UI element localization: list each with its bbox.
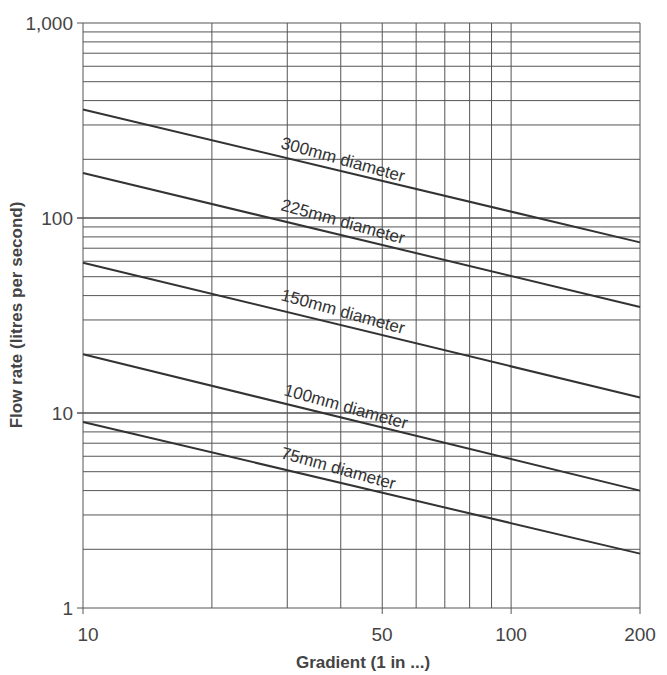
y-axis-label: Flow rate (litres per second) [7,202,26,429]
flow-rate-chart: 1,000 100 10 1 10 50 100 200 Gradient (1… [0,0,667,675]
y-tick-10: 10 [52,403,73,424]
series-line-225mm [83,173,640,307]
x-tick-200: 200 [624,624,656,645]
series-line-150mm [83,263,640,398]
series-lines [83,110,640,554]
series-label-75mm: 75mm diameter [279,444,398,494]
series-line-75mm [83,422,640,554]
x-tick-50: 50 [371,624,392,645]
series-label-150mm: 150mm diameter [279,286,407,338]
x-tick-10: 10 [77,624,98,645]
y-tick-1000: 1,000 [25,13,73,34]
x-axis-label: Gradient (1 in ...) [296,653,430,672]
series-label-225mm: 225mm diameter [279,196,407,248]
x-tick-100: 100 [495,624,527,645]
y-tick-100: 100 [41,208,73,229]
y-tick-1: 1 [62,598,73,619]
